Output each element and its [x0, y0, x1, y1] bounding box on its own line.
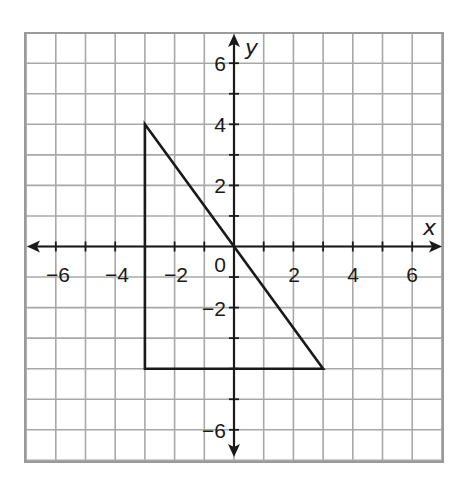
y-tick-label: 6	[214, 52, 226, 75]
y-tick-label: −2	[202, 297, 226, 320]
x-tick-label: −6	[46, 263, 70, 286]
tick-labels: −6 −4 −2 2 4 6 6 4 2 −2 −6 0 x y	[46, 35, 437, 442]
x-tick-label: 6	[406, 263, 418, 286]
y-tick-label: 4	[214, 113, 226, 136]
y-axis-label: y	[244, 35, 259, 60]
x-tick-label: −4	[105, 263, 129, 286]
coordinate-plane: −6 −4 −2 2 4 6 6 4 2 −2 −6 0 x y	[0, 0, 470, 503]
x-axis-label: x	[422, 215, 437, 240]
x-tick-label: −2	[164, 263, 188, 286]
y-tick-label: −6	[202, 419, 226, 442]
x-tick-label: 4	[347, 263, 359, 286]
y-tick-label: 2	[214, 174, 226, 197]
x-tick-label: 2	[288, 263, 300, 286]
origin-label: 0	[214, 253, 226, 276]
